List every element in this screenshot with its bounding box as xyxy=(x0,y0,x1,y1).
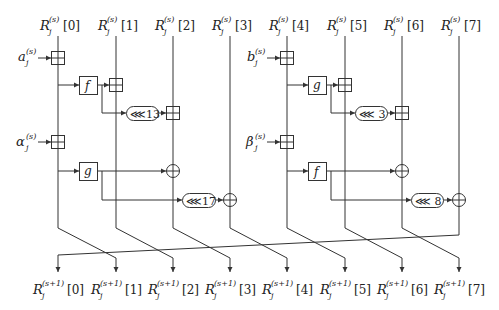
bottom-label-2: R j (s+1) [2] xyxy=(147,279,199,300)
svg-text:(s): (s) xyxy=(221,15,231,24)
svg-text:(s): (s) xyxy=(26,132,36,141)
svg-text:β: β xyxy=(245,134,254,149)
modadd-a xyxy=(52,52,65,65)
svg-text:a: a xyxy=(18,49,26,64)
svg-text:(s+1): (s+1) xyxy=(443,279,465,288)
function-g-right: g xyxy=(309,77,327,95)
top-label-4: R j (s) [4] xyxy=(268,15,309,36)
modadd-beta xyxy=(281,136,294,149)
input-b: b j (s) xyxy=(247,47,280,67)
modadd-alpha xyxy=(52,136,65,149)
xor-rot8 xyxy=(453,194,466,207)
svg-text:[7]: [7] xyxy=(468,283,485,297)
bottom-label-5: R j (s+1) [5] xyxy=(319,279,371,300)
permutation-wires xyxy=(58,228,459,272)
top-label-1: R j (s) [1] xyxy=(97,15,138,36)
svg-text:[0]: [0] xyxy=(67,283,84,297)
top-label-3: R j (s) [3] xyxy=(211,15,252,36)
svg-text:j: j xyxy=(253,143,258,152)
function-f-left: f xyxy=(80,77,98,95)
top-labels: R j (s) [0] R j (s) [1] R j (s) [2] R j … xyxy=(39,15,481,36)
svg-text:[2]: [2] xyxy=(182,283,199,297)
bottom-label-1: R j (s+1) [1] xyxy=(90,279,142,300)
svg-text:(s+1): (s+1) xyxy=(329,279,351,288)
bottom-label-6: R j (s+1) [6] xyxy=(376,279,428,300)
rotate-13: ⋘13 xyxy=(127,107,161,121)
bottom-label-7: R j (s+1) [7] xyxy=(433,279,485,300)
svg-text:[2]: [2] xyxy=(178,19,195,33)
svg-text:[4]: [4] xyxy=(292,19,309,33)
svg-text:[7]: [7] xyxy=(464,19,481,33)
svg-text:⋘17: ⋘17 xyxy=(186,195,216,208)
bottom-labels: R j (s+1) [0] R j (s+1) [1] R j (s+1) [2… xyxy=(32,279,485,300)
xor-rot17 xyxy=(224,194,237,207)
modadd-rot3 xyxy=(396,107,409,120)
svg-text:(s+1): (s+1) xyxy=(214,279,236,288)
svg-text:(s): (s) xyxy=(26,47,36,56)
svg-text:(s): (s) xyxy=(450,15,460,24)
input-a: a j (s) xyxy=(18,47,51,67)
rotate-17: ⋘17 xyxy=(183,194,217,208)
round-function-diagram: R j (s) [0] R j (s) [1] R j (s) [2] R j … xyxy=(0,0,499,310)
svg-text:[5]: [5] xyxy=(354,283,371,297)
top-label-5: R j (s) [5] xyxy=(326,15,367,36)
modadd-rot13 xyxy=(167,107,180,120)
input-alpha: α j (s) xyxy=(16,132,51,152)
svg-text:α: α xyxy=(16,134,25,149)
bottom-label-3: R j (s+1) [3] xyxy=(204,279,256,300)
svg-text:⋘ 3: ⋘ 3 xyxy=(359,108,386,121)
svg-text:(s): (s) xyxy=(255,132,265,141)
svg-text:[3]: [3] xyxy=(239,283,256,297)
rotate-3: ⋘ 3 xyxy=(356,107,388,121)
bottom-label-4: R j (s+1) [4] xyxy=(261,279,313,300)
svg-text:[6]: [6] xyxy=(407,19,424,33)
top-label-6: R j (s) [6] xyxy=(383,15,424,36)
svg-text:(s): (s) xyxy=(278,15,288,24)
svg-text:(s+1): (s+1) xyxy=(42,279,64,288)
svg-text:(s+1): (s+1) xyxy=(271,279,293,288)
xor-f-right xyxy=(396,165,409,178)
svg-text:[0]: [0] xyxy=(63,19,80,33)
svg-text:g: g xyxy=(313,78,321,92)
input-beta: β j (s) xyxy=(245,132,280,152)
svg-text:⋘13: ⋘13 xyxy=(130,108,160,121)
svg-text:(s): (s) xyxy=(164,15,174,24)
top-label-7: R j (s) [7] xyxy=(440,15,481,36)
svg-text:(s): (s) xyxy=(49,15,59,24)
svg-text:[6]: [6] xyxy=(411,283,428,297)
bottom-label-0: R j (s+1) [0] xyxy=(32,279,84,300)
svg-text:[1]: [1] xyxy=(125,283,142,297)
svg-text:(s): (s) xyxy=(255,47,265,56)
modadd-g-right xyxy=(339,79,352,92)
function-f-right: f xyxy=(309,163,327,181)
modadd-f-left xyxy=(110,79,123,92)
top-label-2: R j (s) [2] xyxy=(154,15,195,36)
svg-text:(s): (s) xyxy=(107,15,117,24)
svg-text:(s+1): (s+1) xyxy=(386,279,408,288)
top-label-0: R j (s) [0] xyxy=(39,15,80,36)
rotate-8: ⋘ 8 xyxy=(412,194,444,208)
svg-text:[4]: [4] xyxy=(296,283,313,297)
svg-text:(s+1): (s+1) xyxy=(157,279,179,288)
svg-text:(s): (s) xyxy=(336,15,346,24)
svg-text:(s): (s) xyxy=(393,15,403,24)
function-g-left: g xyxy=(80,163,98,181)
svg-text:⋘ 8: ⋘ 8 xyxy=(415,195,442,208)
svg-text:g: g xyxy=(84,164,92,178)
svg-text:(s+1): (s+1) xyxy=(100,279,122,288)
svg-text:[5]: [5] xyxy=(350,19,367,33)
svg-text:[3]: [3] xyxy=(235,19,252,33)
svg-text:[1]: [1] xyxy=(121,19,138,33)
modadd-b xyxy=(281,52,294,65)
xor-g-left xyxy=(167,165,180,178)
